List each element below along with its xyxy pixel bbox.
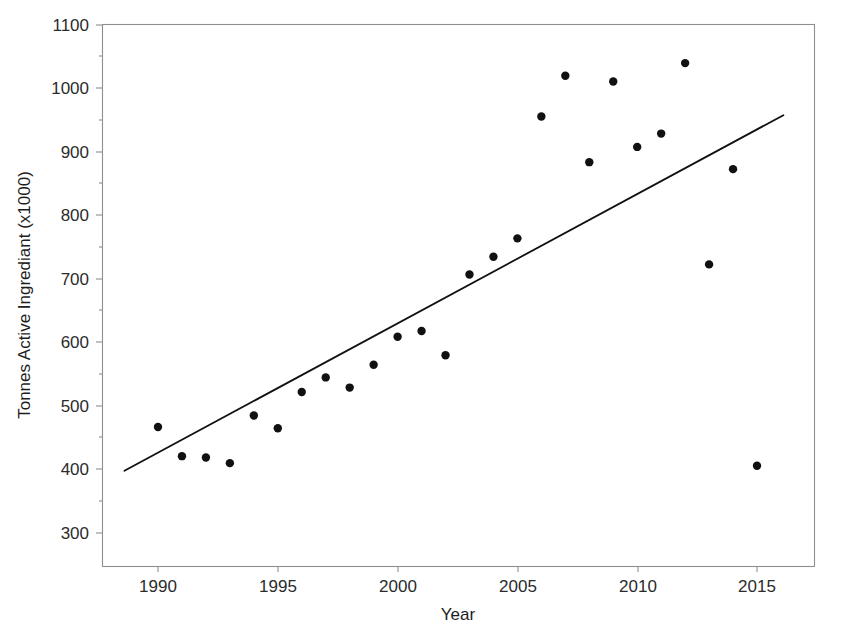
x-tick-label-2000: 2000 bbox=[379, 577, 417, 596]
chart-figure: 1100 1000 900 800 700 600 500 400 300 19… bbox=[0, 0, 851, 633]
data-point bbox=[226, 459, 234, 467]
y-axis-title: Tonnes Active Ingrediant (x1000) bbox=[15, 171, 34, 419]
data-point bbox=[369, 361, 377, 369]
y-tick-label-1100: 1100 bbox=[52, 16, 89, 35]
data-point bbox=[753, 461, 761, 469]
data-point bbox=[154, 423, 162, 431]
data-point bbox=[657, 129, 665, 137]
data-point bbox=[537, 112, 545, 120]
data-point bbox=[345, 383, 353, 391]
data-point bbox=[465, 270, 473, 278]
data-point bbox=[609, 77, 617, 85]
data-point bbox=[705, 260, 713, 268]
x-tick-label-1995: 1995 bbox=[259, 577, 297, 596]
data-point bbox=[729, 165, 737, 173]
y-tick-label-700: 700 bbox=[61, 270, 89, 289]
data-point bbox=[489, 253, 497, 261]
x-tick-label-2015: 2015 bbox=[738, 577, 776, 596]
data-point bbox=[322, 373, 330, 381]
data-point bbox=[298, 388, 306, 396]
y-tick-label-1000: 1000 bbox=[51, 79, 89, 98]
data-point bbox=[417, 327, 425, 335]
x-tick-label-2010: 2010 bbox=[619, 577, 657, 596]
y-tick-label-300: 300 bbox=[61, 524, 89, 543]
data-point bbox=[178, 452, 186, 460]
plot-frame bbox=[103, 25, 815, 567]
data-point bbox=[633, 143, 641, 151]
data-points-group bbox=[154, 59, 761, 470]
x-axis-title: Year bbox=[441, 605, 476, 624]
data-point bbox=[441, 351, 449, 359]
scatter-plot-svg: 1100 1000 900 800 700 600 500 400 300 19… bbox=[0, 0, 851, 633]
x-tick-label-1990: 1990 bbox=[139, 577, 177, 596]
y-tick-label-900: 900 bbox=[61, 143, 89, 162]
y-tick-label-600: 600 bbox=[61, 333, 89, 352]
data-point bbox=[681, 59, 689, 67]
data-point bbox=[513, 234, 521, 242]
data-point bbox=[393, 333, 401, 341]
y-tick-label-800: 800 bbox=[61, 206, 89, 225]
y-axis-ticks bbox=[96, 25, 102, 533]
data-point bbox=[250, 411, 258, 419]
trend-line bbox=[124, 115, 783, 471]
data-point bbox=[202, 453, 210, 461]
data-point bbox=[561, 72, 569, 80]
data-point bbox=[274, 424, 282, 432]
data-point bbox=[585, 158, 593, 166]
y-tick-label-400: 400 bbox=[61, 460, 89, 479]
x-tick-label-2005: 2005 bbox=[499, 577, 537, 596]
y-tick-label-500: 500 bbox=[61, 397, 89, 416]
